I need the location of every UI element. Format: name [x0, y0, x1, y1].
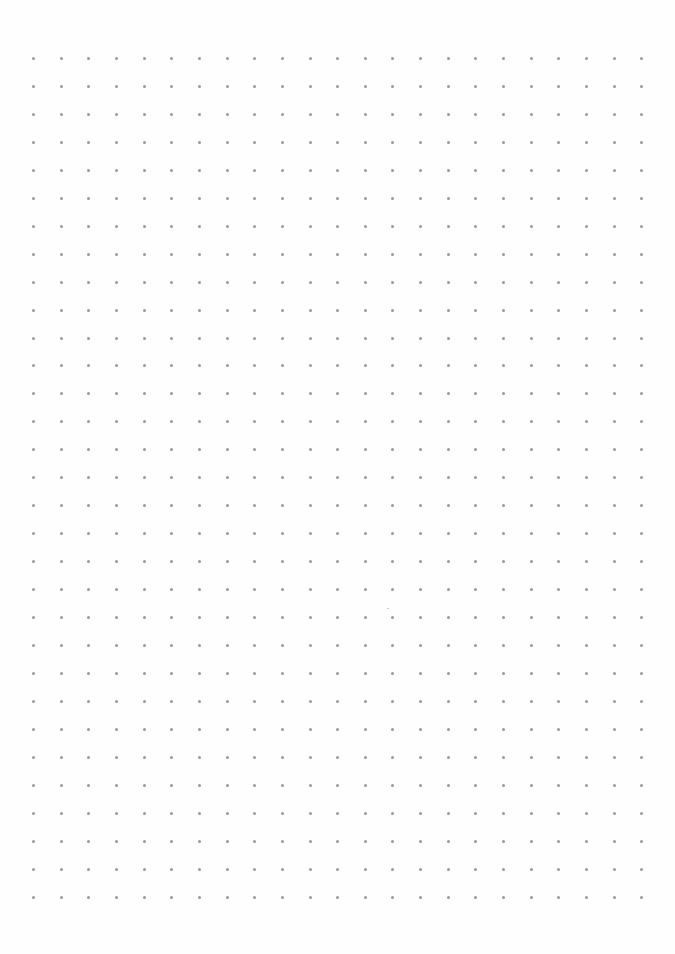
grid-dot: [309, 57, 312, 60]
grid-dot: [474, 896, 477, 899]
grid-dot: [115, 588, 118, 591]
grid-dot: [502, 504, 505, 507]
grid-dot: [557, 784, 560, 787]
grid-dot: [419, 504, 422, 507]
grid-dot: [530, 700, 533, 703]
grid-dot: [60, 700, 63, 703]
grid-dot: [364, 169, 367, 172]
grid-dot: [281, 728, 284, 731]
grid-dot: [557, 560, 560, 563]
grid-dot: [474, 560, 477, 563]
grid-dot: [60, 784, 63, 787]
grid-dot: [87, 57, 90, 60]
grid-dot: [309, 588, 312, 591]
grid-dot: [253, 756, 256, 759]
grid-dot: [364, 504, 367, 507]
grid-dot: [474, 756, 477, 759]
grid-dot: [115, 560, 118, 563]
grid-dot: [253, 728, 256, 731]
grid-dot: [115, 616, 118, 619]
grid-dot: [32, 448, 35, 451]
grid-dot: [391, 840, 394, 843]
grid-dot: [309, 532, 312, 535]
grid-dot: [309, 253, 312, 256]
grid-dot: [170, 868, 173, 871]
grid-dot: [115, 644, 118, 647]
grid-dot: [391, 309, 394, 312]
grid-dot: [143, 644, 146, 647]
grid-dot: [391, 337, 394, 340]
grid-dot: [336, 392, 339, 395]
grid-dot: [336, 896, 339, 899]
grid-dot: [281, 420, 284, 423]
grid-dot: [309, 337, 312, 340]
grid-dot: [364, 420, 367, 423]
grid-dot: [613, 57, 616, 60]
grid-dot: [281, 57, 284, 60]
grid-dot: [143, 896, 146, 899]
grid-dot: [474, 644, 477, 647]
grid-dot: [253, 141, 256, 144]
grid-dot: [281, 532, 284, 535]
grid-dot: [419, 756, 422, 759]
grid-dot: [281, 588, 284, 591]
grid-dot: [613, 113, 616, 116]
grid-dot: [170, 840, 173, 843]
grid-dot: [585, 840, 588, 843]
grid-dot: [557, 281, 560, 284]
grid-dot: [60, 113, 63, 116]
grid-dot: [474, 420, 477, 423]
grid-dot: [253, 476, 256, 479]
grid-dot: [253, 504, 256, 507]
grid-dot: [170, 784, 173, 787]
grid-dot: [474, 225, 477, 228]
grid-dot: [60, 448, 63, 451]
grid-dot: [198, 504, 201, 507]
grid-dot: [170, 448, 173, 451]
grid-dot: [143, 169, 146, 172]
grid-dot: [613, 392, 616, 395]
grid-dot: [115, 85, 118, 88]
grid-dot: [474, 532, 477, 535]
grid-dot: [613, 896, 616, 899]
grid-dot: [336, 420, 339, 423]
grid-dot: [336, 57, 339, 60]
grid-dot: [143, 113, 146, 116]
grid-dot: [60, 840, 63, 843]
grid-dot: [253, 309, 256, 312]
grid-dot: [143, 420, 146, 423]
grid-dot: [640, 896, 643, 899]
grid-dot: [364, 141, 367, 144]
grid-dot: [419, 392, 422, 395]
grid-dot: [585, 364, 588, 367]
grid-dot: [419, 476, 422, 479]
grid-dot: [60, 756, 63, 759]
grid-dot: [336, 812, 339, 815]
grid-dot: [60, 197, 63, 200]
grid-dot: [253, 169, 256, 172]
grid-dot: [474, 448, 477, 451]
grid-dot: [391, 448, 394, 451]
grid-dot: [585, 253, 588, 256]
grid-dot: [253, 588, 256, 591]
grid-dot: [613, 337, 616, 340]
grid-dot: [60, 364, 63, 367]
grid-dot: [640, 85, 643, 88]
grid-dot: [530, 337, 533, 340]
grid-dot: [640, 253, 643, 256]
grid-dot: [613, 169, 616, 172]
grid-dot: [143, 476, 146, 479]
grid-dot: [447, 616, 450, 619]
grid-dot: [557, 309, 560, 312]
grid-dot: [530, 85, 533, 88]
grid-dot: [640, 309, 643, 312]
grid-dot: [613, 476, 616, 479]
grid-dot: [143, 225, 146, 228]
grid-dot: [447, 560, 450, 563]
grid-dot: [198, 85, 201, 88]
dot-grid: [0, 0, 675, 954]
grid-dot: [419, 113, 422, 116]
grid-dot: [391, 616, 394, 619]
grid-dot: [585, 141, 588, 144]
grid-dot: [170, 812, 173, 815]
